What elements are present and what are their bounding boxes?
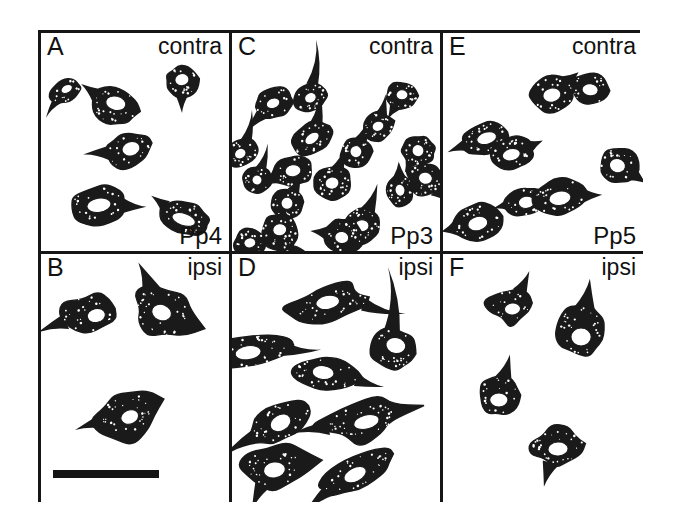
cytoplasm-stipple bbox=[296, 372, 297, 373]
cytoplasm-stipple bbox=[286, 213, 288, 215]
cytoplasm-stipple bbox=[256, 431, 259, 434]
neuron-soma bbox=[254, 154, 314, 191]
cytoplasm-stipple bbox=[349, 215, 351, 217]
cytoplasm-stipple bbox=[290, 183, 293, 186]
cytoplasm-stipple bbox=[511, 207, 512, 208]
cytoplasm-stipple bbox=[326, 138, 328, 140]
cytoplasm-stipple bbox=[341, 192, 344, 195]
cytoplasm-stipple bbox=[600, 80, 602, 82]
cytoplasm-stipple bbox=[102, 93, 103, 94]
neuron-soma bbox=[481, 271, 535, 329]
neuron-process bbox=[628, 166, 643, 184]
cytoplasm-stipple bbox=[315, 310, 317, 312]
cytoplasm-stipple bbox=[193, 74, 196, 77]
cytoplasm-stipple bbox=[567, 317, 569, 319]
cytoplasm-stipple bbox=[570, 87, 572, 89]
cytoplasm-stipple bbox=[163, 332, 165, 334]
cytoplasm-stipple bbox=[84, 309, 86, 311]
cytoplasm-stipple bbox=[360, 456, 362, 458]
cytoplasm-stipple bbox=[468, 135, 471, 138]
neuron-cytoplasm bbox=[123, 278, 214, 353]
neuron-process bbox=[78, 84, 102, 103]
cytoplasm-stipple bbox=[373, 133, 376, 136]
cytoplasm-stipple bbox=[264, 431, 267, 434]
cytoplasm-stipple bbox=[112, 212, 114, 214]
neuron-cytoplasm bbox=[529, 174, 590, 220]
neuron-soma bbox=[286, 386, 430, 462]
cytoplasm-stipple bbox=[294, 193, 297, 196]
cytoplasm-stipple bbox=[420, 159, 421, 160]
cytoplasm-stipple bbox=[431, 152, 433, 154]
neuron-process bbox=[492, 199, 509, 213]
cytoplasm-stipple bbox=[387, 408, 389, 410]
cytoplasm-stipple bbox=[109, 147, 112, 150]
cytoplasm-stipple bbox=[278, 213, 280, 215]
cytoplasm-stipple bbox=[332, 429, 333, 430]
cytoplasm-stipple bbox=[543, 210, 546, 213]
neuron-process bbox=[360, 184, 377, 214]
cytoplasm-stipple bbox=[137, 138, 138, 139]
cytoplasm-stipple bbox=[625, 176, 628, 179]
cytoplasm-stipple bbox=[383, 134, 386, 137]
cytoplasm-stipple bbox=[341, 182, 343, 184]
cytoplasm-stipple bbox=[159, 322, 161, 324]
cytoplasm-stipple bbox=[515, 139, 517, 141]
cytoplasm-stipple bbox=[96, 97, 97, 98]
cytoplasm-stipple bbox=[272, 342, 273, 343]
cytoplasm-stipple bbox=[473, 214, 475, 216]
neuron-cytoplasm bbox=[289, 78, 331, 117]
cytoplasm-stipple bbox=[353, 223, 355, 225]
cytoplasm-stipple bbox=[532, 444, 535, 447]
neuron-process bbox=[286, 175, 302, 195]
cytoplasm-stipple bbox=[391, 197, 393, 199]
cytoplasm-stipple bbox=[305, 369, 306, 370]
neuron-soma bbox=[529, 171, 604, 219]
cytoplasm-stipple bbox=[371, 121, 372, 122]
cytoplasm-stipple bbox=[387, 190, 388, 191]
cytoplasm-stipple bbox=[193, 73, 195, 75]
cytoplasm-stipple bbox=[261, 339, 264, 342]
cytoplasm-stipple bbox=[283, 347, 285, 349]
cytoplasm-stipple bbox=[484, 400, 486, 402]
cytoplasm-stipple bbox=[303, 177, 306, 180]
cytoplasm-stipple bbox=[559, 439, 560, 440]
cytoplasm-stipple bbox=[166, 211, 168, 213]
cytoplasm-stipple bbox=[115, 429, 118, 432]
cytoplasm-stipple bbox=[336, 293, 337, 294]
cytoplasm-stipple bbox=[248, 181, 250, 183]
cytoplasm-stipple bbox=[274, 240, 275, 241]
neuron-nucleus bbox=[417, 171, 433, 186]
cytoplasm-stipple bbox=[424, 165, 426, 167]
cytoplasm-stipple bbox=[498, 159, 501, 162]
cytoplasm-stipple bbox=[501, 292, 503, 294]
panel-side-label-A: contra bbox=[158, 35, 222, 58]
cytoplasm-stipple bbox=[493, 305, 495, 307]
cytoplasm-stipple bbox=[404, 104, 406, 106]
cytoplasm-stipple bbox=[389, 129, 391, 132]
neuron-nucleus bbox=[120, 139, 142, 158]
cytoplasm-stipple bbox=[408, 144, 411, 147]
cytoplasm-stipple bbox=[307, 175, 309, 177]
cytoplasm-stipple bbox=[406, 361, 408, 363]
cytoplasm-stipple bbox=[356, 484, 359, 487]
neuron-soma bbox=[597, 144, 643, 190]
cytoplasm-stipple bbox=[384, 457, 387, 460]
cytoplasm-stipple bbox=[346, 185, 348, 187]
cytoplasm-stipple bbox=[347, 145, 349, 147]
cytoplasm-stipple bbox=[505, 382, 506, 383]
panel-area-label-C: Pp3 bbox=[390, 224, 433, 248]
cytoplasm-stipple bbox=[417, 169, 419, 171]
cytoplasm-stipple bbox=[329, 233, 331, 235]
cytoplasm-stipple bbox=[174, 299, 176, 301]
cytoplasm-stipple bbox=[352, 299, 354, 301]
cytoplasm-stipple bbox=[298, 157, 300, 159]
cytoplasm-stipple bbox=[254, 149, 256, 151]
cytoplasm-stipple bbox=[317, 99, 319, 101]
cytoplasm-stipple bbox=[122, 405, 124, 407]
cytoplasm-stipple bbox=[298, 93, 300, 96]
cytoplasm-stipple bbox=[525, 155, 528, 158]
cytoplasm-stipple bbox=[141, 412, 144, 415]
neuron-cytoplasm bbox=[367, 325, 420, 374]
cytoplasm-stipple bbox=[142, 416, 144, 418]
cytoplasm-stipple bbox=[421, 193, 422, 194]
